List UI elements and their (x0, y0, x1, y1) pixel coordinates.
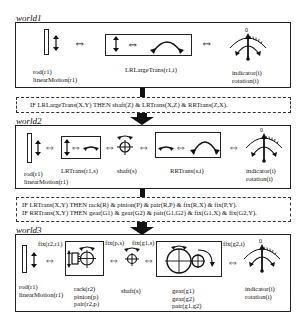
equivalence-icon: ⇔ (73, 36, 86, 49)
rrtrans-label: RRTrans(s,i) (170, 167, 204, 175)
indicator-gauge-icon (228, 32, 268, 62)
connector-bar (140, 88, 145, 97)
rod-label: rod(r1) linearMotion(r1) (33, 68, 77, 83)
indicator-gauge-icon (244, 132, 284, 164)
connector-bar (140, 189, 145, 197)
down-arrow-icon (130, 113, 154, 125)
rule-box-1: IF LRLargeTrans(X,Y) THEN shaft(Z) & LRT… (16, 97, 291, 113)
fix-r2-r1-label: fix(r2,r1) (38, 240, 62, 248)
equivalence-icon: ⇔ (44, 254, 56, 266)
equivalence-icon: ⇔ (138, 141, 150, 153)
lrlargetrans-label: LRLargeTrans(r1,i) (125, 66, 177, 74)
shaft-icon (115, 133, 135, 157)
rotation-arc-icon (150, 38, 184, 54)
equivalence-icon: ⇔ (70, 141, 82, 153)
indicator-label: indicator(i) rotation(i) (232, 69, 262, 84)
indicator-gauge-icon (242, 243, 282, 275)
linear-motion-icon (113, 36, 119, 52)
small-rotation-icon (158, 144, 174, 151)
equivalence-icon: ⇔ (227, 256, 239, 268)
equivalence-icon: ⇔ (228, 141, 240, 153)
equivalence-icon: ⇔ (108, 254, 120, 266)
equivalence-icon: ⇔ (143, 254, 155, 266)
rod-icon (27, 133, 32, 163)
equivalence-icon: ⇔ (44, 141, 56, 153)
gears-label: gear(g1) gear(g2) pair(g1,g2) (172, 287, 201, 310)
shaft-label: shaft(s) (121, 287, 141, 295)
rod-label: rod(r1) linearMotion(r1) (19, 283, 63, 298)
linear-motion-icon (35, 140, 41, 156)
rack-pinion-label: rack(r2) pinion(p) pair(r2,p) (74, 285, 99, 308)
small-rotation-icon (83, 144, 99, 151)
equivalence-icon: ⇔ (126, 37, 139, 50)
rule-box-2: IF LRTrans(X,Y) THEN rack(R) & pinion(P)… (16, 197, 291, 222)
indicator-label: indicator(i) rotation(i) (245, 285, 275, 300)
rod-icon (44, 29, 49, 55)
linear-motion-icon (53, 35, 59, 51)
indicator-label: indicator(i) rotation(i) (246, 167, 276, 182)
lrtrans-label: LRTrans(r1,s) (61, 167, 98, 175)
rod-icon (22, 245, 27, 273)
equivalence-icon: ⇔ (200, 36, 213, 49)
gear-pair-icon (160, 245, 220, 275)
linear-motion-icon (31, 252, 37, 268)
rotation-arc-icon (190, 137, 220, 155)
equivalence-icon: ⇔ (175, 141, 187, 153)
rack-pinion-icon (67, 246, 101, 270)
shaft-label: shaft(s) (117, 167, 137, 175)
shaft-icon (122, 246, 142, 268)
